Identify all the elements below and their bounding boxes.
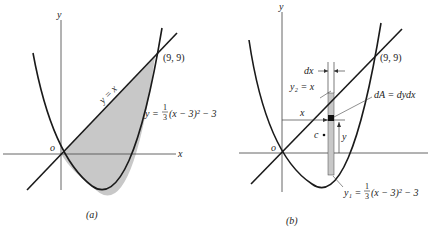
dA-element	[328, 115, 334, 121]
dA-leader	[334, 97, 372, 117]
parabola-curve	[249, 23, 381, 188]
y1-label-num: 1	[365, 182, 369, 191]
arrowhead	[323, 118, 328, 122]
centroid-dot	[323, 134, 326, 137]
arrowhead	[324, 69, 328, 73]
y1-label-den: 3	[365, 192, 369, 201]
panel-b: y o (9, 9) dx y₂ = x dA = dydx x y c y₁ …	[239, 1, 428, 227]
point-9-9-label: (9, 9)	[380, 52, 402, 64]
figure-canvas: y x o (9, 9) y = x y = 1 3 (x − 3)² − 3 …	[0, 0, 431, 232]
y-dimension-label: y	[341, 131, 347, 142]
curve-label-prefix: y =	[144, 108, 159, 119]
panel-a: y x o (9, 9) y = x y = 1 3 (x − 3)² − 3 …	[3, 9, 217, 221]
dx-label: dx	[304, 65, 314, 76]
y1-label: y₁ = 1 3 (x − 3)² − 3	[343, 182, 419, 201]
arrowhead	[334, 69, 338, 73]
y-axis-label: y	[56, 9, 62, 20]
caption-b: (b)	[286, 215, 298, 227]
curve-label-suffix: (x − 3)² − 3	[169, 108, 217, 120]
origin-label: o	[50, 142, 55, 153]
curve-label-num: 1	[163, 103, 167, 112]
y-axis-label: y	[278, 1, 284, 12]
centroid-label: c	[314, 129, 319, 140]
curve-label-den: 3	[163, 113, 167, 122]
point-9-9-label: (9, 9)	[163, 52, 185, 64]
x-axis-label: x	[177, 148, 183, 159]
y1-label-suffix: (x − 3)² − 3	[371, 187, 419, 199]
origin-label: o	[271, 142, 276, 153]
dA-label: dA = dydx	[374, 89, 416, 100]
caption-a: (a)	[86, 209, 98, 221]
curve-label: y = 1 3 (x − 3)² − 3	[144, 103, 217, 122]
arrowhead	[337, 122, 341, 127]
x-dimension-label: x	[299, 107, 305, 118]
differential-strip	[328, 93, 334, 175]
y1-label-prefix: y₁ =	[343, 187, 361, 198]
y2-label: y₂ = x	[289, 81, 315, 92]
